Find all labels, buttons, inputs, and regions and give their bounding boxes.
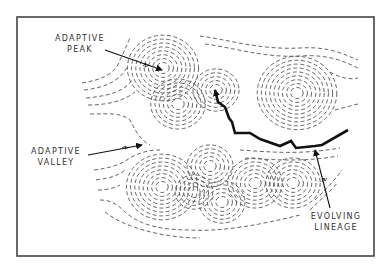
adaptive-valley-label-line1: ADAPTIVE <box>28 146 84 157</box>
adaptive-peak-label-line1: ADAPTIVE <box>50 33 110 44</box>
adaptive-peak-label-line2: PEAK <box>50 44 110 55</box>
adaptive-valley-label-line2: VALLEY <box>28 157 84 168</box>
evolving-lineage-label-line1: EVOLVING <box>308 211 364 222</box>
evolving-lineage-label: EVOLVING LINEAGE <box>308 211 364 233</box>
adaptive-peak-label: ADAPTIVE PEAK <box>50 33 110 55</box>
evolving-lineage-label-line2: LINEAGE <box>308 222 364 233</box>
adaptive-landscape-figure: ADAPTIVE PEAK ADAPTIVE VALLEY EVOLVING L… <box>0 0 391 271</box>
adaptive-valley-label: ADAPTIVE VALLEY <box>28 146 84 168</box>
